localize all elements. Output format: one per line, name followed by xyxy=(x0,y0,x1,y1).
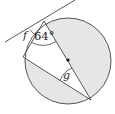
shaded-regions xyxy=(0,0,115,114)
label-f: f xyxy=(22,29,29,42)
label-g: g xyxy=(63,69,70,82)
center-point xyxy=(66,58,69,61)
label-64-degrees: 64° xyxy=(34,29,54,43)
geometry-diagram: f 64° g xyxy=(0,0,115,114)
